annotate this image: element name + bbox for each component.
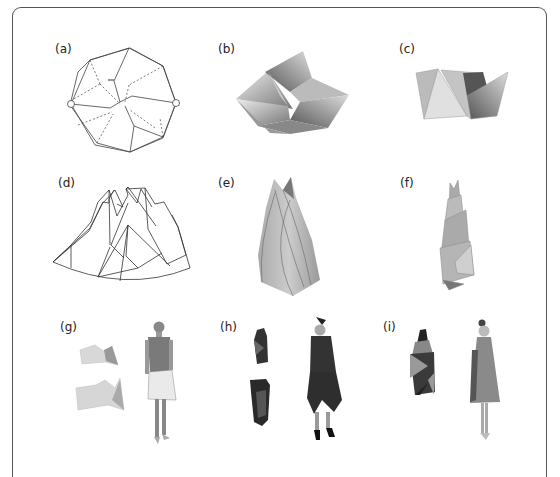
mannequin-i [470,320,500,441]
